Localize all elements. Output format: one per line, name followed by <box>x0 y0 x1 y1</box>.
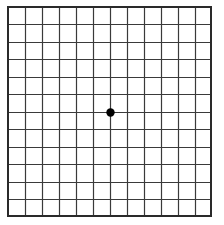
center-fixation-dot <box>106 108 114 116</box>
grid-lines <box>7 6 212 217</box>
amsler-grid <box>7 6 212 217</box>
